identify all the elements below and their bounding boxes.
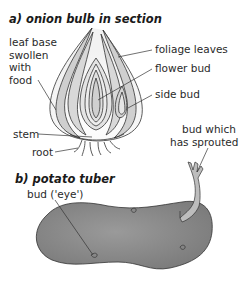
label-bud-sprouted: bud which: [182, 123, 236, 136]
onion-title: a) onion bulb in section: [9, 12, 162, 26]
label-leaf-base: leaf base swollen with food: [9, 36, 57, 86]
leader-foliage-leaves: [118, 50, 152, 57]
label-root: root: [32, 146, 53, 159]
onion-bulb: [50, 28, 142, 156]
onion-roots: [74, 140, 120, 156]
label-stem: stem: [13, 128, 39, 141]
label-bud-sprouted-line2: has sprouted: [170, 136, 238, 149]
label-bud-eye: bud ('eye'): [27, 188, 83, 201]
potato-title: b) potato tuber: [15, 172, 115, 186]
label-foliage-leaves: foliage leaves: [155, 43, 228, 56]
label-flower-bud: flower bud: [155, 62, 211, 75]
label-side-bud: side bud: [155, 88, 200, 101]
